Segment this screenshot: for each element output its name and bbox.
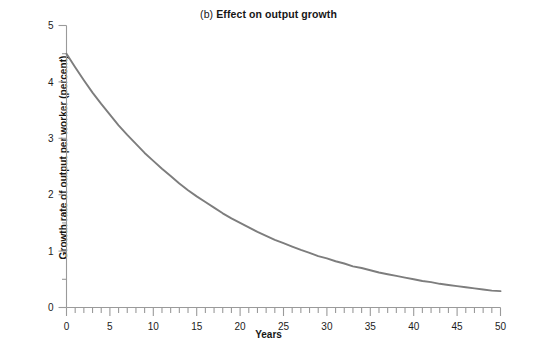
y-tick-label: 2 bbox=[48, 189, 54, 200]
data-series-line bbox=[67, 54, 501, 291]
chart-figure: (b) Effect on output growth Growth rate … bbox=[0, 0, 537, 352]
y-tick-label: 3 bbox=[48, 133, 54, 144]
y-tick-label: 0 bbox=[48, 302, 54, 313]
y-tick-label: 1 bbox=[48, 246, 54, 257]
y-tick-label: 5 bbox=[48, 20, 54, 31]
x-axis-label: Years bbox=[0, 329, 537, 340]
plot-area: 01234505101520253035404550 bbox=[0, 0, 537, 352]
y-tick-label: 4 bbox=[48, 77, 54, 88]
